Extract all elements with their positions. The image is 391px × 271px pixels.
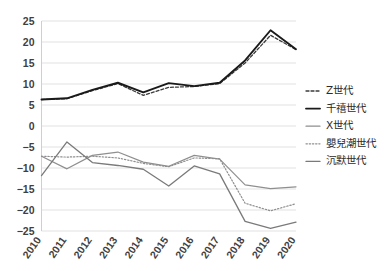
legend-label-1: 千禧世代 [326, 102, 367, 114]
y-axis-tick-label: 15 [23, 57, 35, 69]
y-axis-tick-label: 5 [29, 99, 35, 111]
x-axis-tick-label: 2010 [20, 234, 43, 260]
series-line-3 [42, 156, 297, 211]
y-axis-tick-labels: 2520151050−5−10−15−20−25 [17, 15, 35, 237]
x-axis-tick-labels: 2010201120122013201420152016201720182019… [20, 234, 298, 260]
x-axis-tick-label: 2017 [198, 234, 221, 260]
x-axis-tick-label: 2019 [249, 234, 272, 260]
x-axis-tick-label: 2018 [224, 234, 247, 260]
chart-legend: Z世代千禧世代X世代嬰兒潮世代沉默世代 [306, 84, 377, 166]
y-axis-tick-label: 20 [23, 36, 35, 48]
line-chart: 2520151050−5−10−15−20−25 201020112012201… [0, 0, 391, 271]
legend-label-0: Z世代 [326, 84, 354, 96]
series-line-1 [42, 30, 297, 99]
series-lines [42, 30, 297, 228]
series-line-4 [42, 142, 297, 229]
series-line-2 [42, 152, 297, 189]
y-axis-tick-label: −5 [23, 141, 35, 153]
x-axis-tick-label: 2012 [71, 234, 94, 260]
x-axis-tick-label: 2016 [173, 234, 196, 260]
x-axis-tick-label: 2015 [147, 234, 170, 260]
x-axis-tick-label: 2013 [96, 234, 119, 260]
y-axis-tick-label: 25 [23, 15, 35, 27]
x-axis-tick-label: 2020 [274, 234, 297, 260]
y-axis-tick-label: −10 [17, 162, 35, 174]
legend-label-2: X世代 [326, 119, 354, 131]
legend-label-4: 沉默世代 [326, 154, 367, 166]
grid-lines [42, 21, 297, 231]
y-axis-tick-label: −20 [17, 204, 35, 216]
x-axis-tick-label: 2011 [46, 234, 69, 260]
chart-canvas: 2520151050−5−10−15−20−25 201020112012201… [0, 0, 391, 271]
x-axis-tick-label: 2014 [122, 234, 145, 260]
y-axis-tick-label: 0 [29, 120, 35, 132]
y-axis-tick-label: −15 [17, 183, 35, 195]
y-axis-tick-label: 10 [23, 78, 35, 90]
legend-label-3: 嬰兒潮世代 [326, 137, 377, 149]
